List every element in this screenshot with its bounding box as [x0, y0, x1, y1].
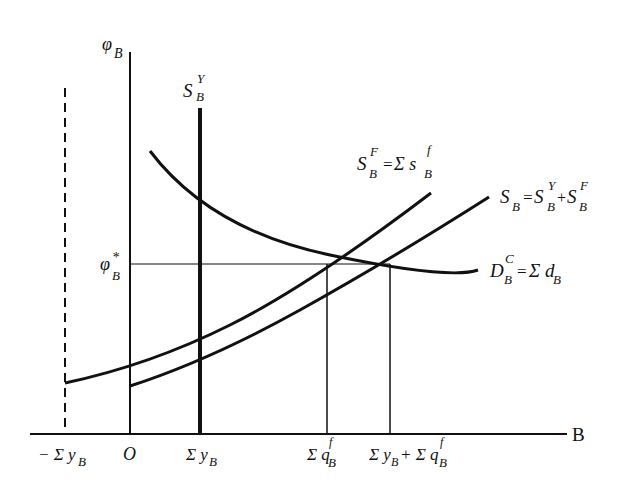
svg-text:S: S [357, 153, 367, 174]
svg-text:− Σ y: − Σ y [38, 445, 76, 464]
y-axis-label: φ B [102, 34, 123, 61]
supply-demand-diagram: φ B B S Y B S F B = Σ s f B S B = S Y B … [0, 0, 632, 498]
svg-text:B: B [512, 199, 520, 214]
svg-text:B: B [439, 455, 447, 470]
demand-label: D C B = Σ d B [489, 251, 561, 287]
svg-text:f: f [440, 435, 445, 449]
tick-neg-endowment: − Σ y B [38, 445, 86, 469]
svg-text:B: B [196, 89, 204, 104]
svg-text:Y: Y [197, 71, 206, 86]
svg-text:B: B [112, 268, 120, 283]
tick-total-quantity: Σ y B + Σ q f B [368, 435, 447, 470]
svg-text:B: B [209, 454, 217, 469]
svg-text:S: S [534, 186, 544, 207]
svg-text:Σ s: Σ s [393, 154, 416, 174]
svg-text:C: C [505, 251, 514, 266]
tick-foreign-quantity: Σ q f B [306, 435, 336, 470]
x-axis-label: B [572, 424, 585, 445]
foreign-supply-curve [65, 193, 431, 383]
svg-text:S: S [500, 186, 510, 207]
tick-endowment: Σ y B [185, 445, 217, 469]
svg-text:B: B [579, 199, 587, 214]
svg-text:B: B [553, 272, 561, 287]
svg-text:F: F [579, 178, 589, 193]
svg-text:B: B [424, 166, 432, 181]
svg-text:=: = [383, 155, 393, 174]
svg-text:Σ q: Σ q [306, 445, 330, 464]
svg-text:=: = [517, 262, 527, 281]
svg-text:φ: φ [102, 34, 112, 54]
supply-y-label: S Y B [183, 71, 206, 104]
total-supply-label: S B = S Y B + S F B [500, 178, 589, 214]
svg-text:B: B [504, 272, 512, 287]
svg-text:+: + [557, 189, 566, 206]
svg-text:f: f [427, 142, 433, 157]
svg-text:Y: Y [548, 178, 557, 193]
svg-text:=: = [523, 188, 533, 207]
svg-text:f: f [329, 435, 334, 449]
svg-text:Σ y: Σ y [368, 445, 391, 464]
svg-text:S: S [567, 186, 577, 207]
svg-text:*: * [112, 250, 119, 265]
svg-text:S: S [183, 80, 193, 101]
svg-text:B: B [391, 455, 399, 469]
svg-text:φ: φ [100, 254, 110, 274]
svg-text:Σ d: Σ d [528, 260, 555, 281]
svg-text:Σ y: Σ y [185, 445, 208, 464]
tick-origin: O [123, 444, 136, 464]
svg-text:F: F [369, 144, 379, 159]
equilibrium-price-label: φ * B [100, 250, 120, 283]
svg-text:B: B [328, 455, 336, 470]
svg-text:B: B [547, 199, 555, 214]
svg-text:B: B [369, 166, 377, 181]
svg-text:D: D [489, 260, 504, 281]
svg-text:B: B [114, 46, 123, 61]
svg-text:B: B [78, 454, 86, 469]
total-supply-curve [130, 197, 489, 386]
foreign-supply-label: S F B = Σ s f B [357, 142, 433, 181]
svg-text:+ Σ q: + Σ q [400, 445, 439, 464]
